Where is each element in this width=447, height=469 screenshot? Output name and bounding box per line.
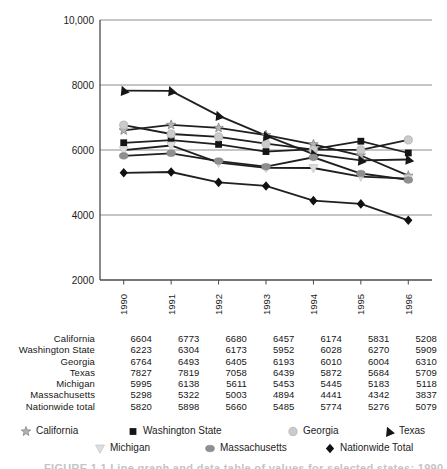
table-cell: 5298 [95,389,152,400]
table-row: Washington State622363046173595260286270… [0,344,437,355]
triangle-down-legend-icon [94,442,106,454]
table-cell: 6405 [200,356,248,367]
diamond-marker-icon [120,168,128,178]
triangle-up-marker-icon [212,109,224,121]
legend-item-georgia: Georgia [287,424,339,437]
square-marker-icon [130,428,137,435]
row-label: Nationwide total [0,401,95,412]
circle-marker-icon [404,136,412,144]
legend-item-texas: Texas [383,424,425,437]
square-legend-icon [127,425,139,437]
oval-marker-icon [356,170,365,177]
legend-label: Nationwide Total [340,442,413,453]
table-cell: 6010 [295,356,343,367]
oval-marker-icon [404,177,413,184]
x-tick-label: 1996 [403,294,414,315]
triangle-down-marker-icon [96,445,105,453]
table-cell: 5276 [342,401,390,412]
legend-label: California [36,425,78,436]
table-cell: 6773 [152,333,200,344]
y-tick-label: 8000 [72,80,95,91]
legend-item-washington-state: Washington State [127,424,222,437]
table-row: Michigan5995613856115453544551835118 [0,378,437,389]
legend-item-california: California [20,424,78,437]
table-cell: 5003 [200,389,248,400]
star-legend-icon [20,425,32,437]
table-row: Nationwide total582058985660548557745276… [0,401,437,412]
table-row: Georgia6764649364056193601060046310 [0,356,437,367]
diamond-marker-icon [167,167,175,177]
diamond-marker-icon [326,443,334,453]
table-cell: 6004 [342,356,390,367]
diamond-marker-icon [309,196,317,206]
table-cell: 6270 [342,344,390,355]
oval-marker-icon [214,158,223,165]
table-cell: 5208 [390,333,438,344]
row-label: Michigan [0,378,95,389]
table-row: California6604677366806457617458315208 [0,333,437,344]
table-row: Massachusetts529853225003489444414342383… [0,389,437,400]
row-label: Massachusetts [0,389,95,400]
row-label: California [0,333,95,344]
star-marker-icon [214,123,224,132]
table-cell: 5485 [247,401,295,412]
diamond-marker-icon [262,181,270,191]
circle-marker-icon [120,121,128,129]
table-cell: 6439 [247,367,295,378]
row-label: Georgia [0,356,95,367]
series-markers-massachusetts [120,167,413,225]
table-cell: 6028 [295,344,343,355]
table-cell: 5709 [390,367,438,378]
y-tick-label: 4000 [72,210,95,221]
table-cell: 5118 [390,378,438,389]
table-cell: 6223 [95,344,152,355]
legend-item-massachusetts: Massachusetts [204,441,287,454]
x-tick-label: 1992 [213,294,224,315]
table-cell: 5995 [95,378,152,389]
square-marker-icon [263,148,270,155]
table-cell: 5183 [342,378,390,389]
table-cell: 6764 [95,356,152,367]
triangle-up-legend-icon [383,425,395,437]
table-cell: 6493 [152,356,200,367]
square-marker-icon [215,141,222,148]
x-tick-label: 1991 [166,294,177,315]
table-cell: 5611 [200,378,248,389]
table-cell: 3837 [390,389,438,400]
x-tick-label: 1993 [261,294,272,315]
figure-caption: FIGURE 1.1 Line graph and data table of … [44,462,444,469]
circle-marker-icon [357,146,365,154]
figure-page: 10,0008000600040002000199019911992199319… [0,0,447,469]
y-tick-label: 2000 [72,275,95,286]
y-tick-label: 6000 [72,145,95,156]
table-cell: 5684 [342,367,390,378]
legend-label: Texas [399,425,425,436]
square-marker-icon [405,150,412,157]
oval-legend-icon [204,442,216,454]
row-label: Washington State [0,344,95,355]
square-marker-icon [120,139,127,146]
table-cell: 4441 [295,389,343,400]
diamond-marker-icon [404,215,412,225]
oval-marker-icon [262,163,271,170]
legend-label: Washington State [143,425,222,436]
circle-legend-icon [287,425,299,437]
table-cell: 7058 [200,367,248,378]
table-cell: 5952 [247,344,295,355]
table-cell: 5820 [95,401,152,412]
x-tick-label: 1994 [308,294,319,315]
table-cell: 5660 [200,401,248,412]
legend-item-nationwide-total: Nationwide Total [324,441,413,454]
triangle-up-marker-icon [383,425,395,437]
oval-marker-icon [309,154,318,161]
square-marker-icon [357,138,364,145]
table-cell: 5898 [152,401,200,412]
diamond-marker-icon [214,178,222,188]
oval-marker-icon [167,150,176,157]
diamond-marker-icon [357,199,365,209]
x-tick-label: 1990 [118,294,129,315]
line-chart: 10,0008000600040002000199019911992199319… [0,0,447,322]
legend-label: Michigan [110,442,150,453]
series-line-massachusetts [124,172,409,220]
table-cell: 7827 [95,367,152,378]
